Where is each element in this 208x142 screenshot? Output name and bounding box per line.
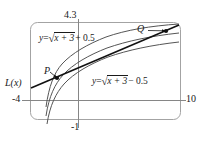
graph-canvas [0,0,208,142]
axis-label-negative-1: -1 [71,122,79,132]
equation-lower-curve: y=√x + 3− 0.5 [92,75,148,87]
label-point-q: Q [137,24,144,34]
label-linear-approximation: L(x) [5,78,22,88]
equation-lower-equals: = [96,76,101,86]
equation-lower-tail: − 0.5 [128,76,148,86]
equation-upper-tail: + 0.5 [75,33,95,43]
radical-icon: √ [49,32,55,44]
figure-container: 4.3 -1 -4 10 L(x) P Q y=√x + 3+ 0.5 y=√x… [0,0,208,142]
axis-label-10: 10 [186,94,196,104]
equation-upper-equals: = [43,33,48,43]
equation-upper-curve: y=√x + 3+ 0.5 [39,32,95,44]
axis-label-negative-4: -4 [12,94,20,104]
equation-lower-radicand: x + 3 [107,75,128,86]
label-point-p: P [44,66,50,76]
axis-label-4point3: 4.3 [64,10,77,20]
equation-upper-radicand: x + 3 [54,32,75,43]
radical-icon: √ [102,75,108,87]
